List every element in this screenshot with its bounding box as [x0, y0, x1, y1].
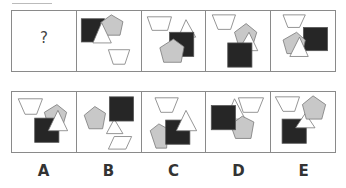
option-b-shapes [77, 92, 141, 152]
figure-1-shapes [77, 11, 141, 71]
option-a[interactable] [12, 92, 77, 152]
option-d-shapes [206, 92, 270, 152]
option-c[interactable] [142, 92, 207, 152]
option-label-e[interactable]: E [271, 162, 336, 180]
sequence-figure-1 [77, 11, 142, 71]
option-label-d[interactable]: D [206, 162, 271, 180]
question-cell: ? [12, 11, 77, 71]
sequence-figure-2 [142, 11, 207, 71]
sequence-figure-3 [206, 11, 271, 71]
option-labels: A B C D E [11, 162, 336, 180]
figure-4-shapes [271, 11, 335, 71]
option-label-c[interactable]: C [141, 162, 206, 180]
option-e[interactable] [271, 92, 335, 152]
figure-3-shapes [206, 11, 270, 71]
figure-2-shapes [142, 11, 206, 71]
option-c-shapes [142, 92, 206, 152]
cropped-header-text [12, 0, 52, 4]
question-mark: ? [12, 29, 76, 47]
option-e-shapes [271, 92, 335, 152]
option-d[interactable] [206, 92, 271, 152]
sequence-figure-4 [271, 11, 335, 71]
sequence-row: ? [11, 10, 336, 72]
option-b[interactable] [77, 92, 142, 152]
option-label-b[interactable]: B [76, 162, 141, 180]
option-label-a[interactable]: A [11, 162, 76, 180]
options-row [11, 91, 336, 153]
option-a-shapes [12, 92, 76, 152]
